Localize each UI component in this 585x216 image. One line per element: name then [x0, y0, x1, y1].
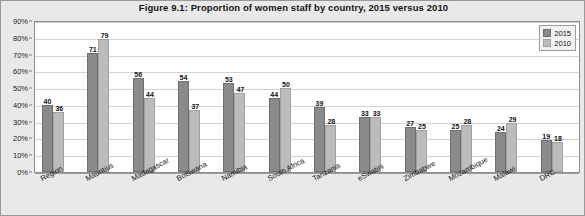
bar-2015[interactable]: 27 — [405, 127, 416, 172]
page-title: Figure 9.1: Proportion of women staff by… — [1, 2, 585, 13]
bar-group: 2429 — [488, 21, 533, 172]
bar-group: 7179 — [80, 21, 125, 172]
legend-label-2015: 2015 — [554, 29, 571, 38]
legend-swatch-2015-icon — [543, 29, 551, 37]
y-axis-tickmark — [29, 71, 32, 72]
bar-value-label: 28 — [327, 118, 335, 125]
bar-group: 2725 — [398, 21, 443, 172]
y-axis-tick-label: 40% — [13, 100, 28, 109]
bar-value-label: 54 — [180, 74, 188, 81]
bar-2015[interactable]: 24 — [495, 132, 506, 172]
bar-value-label: 19 — [542, 133, 550, 140]
bar-value-label: 36 — [55, 105, 63, 112]
y-axis-tick-label: 90% — [13, 17, 28, 26]
legend-item-2010[interactable]: 2010 — [543, 38, 571, 48]
bar-group: 2528 — [443, 21, 488, 172]
y-axis-tick-label: 20% — [13, 134, 28, 143]
bar-value-label: 33 — [373, 110, 381, 117]
bar-value-label: 50 — [282, 81, 290, 88]
y-axis-tickmark — [29, 121, 32, 122]
figure-9-1-chart: Figure 9.1: Proportion of women staff by… — [0, 0, 585, 216]
y-axis-tick-label: 10% — [13, 151, 28, 160]
bar-value-label: 56 — [134, 71, 142, 78]
bar-2010[interactable]: 50 — [280, 88, 291, 172]
y-axis-tick-label: 0% — [17, 168, 28, 177]
y-axis-tickmark — [29, 104, 32, 105]
bar-2010[interactable]: 36 — [53, 112, 64, 172]
bar-2015[interactable]: 54 — [178, 81, 189, 172]
bar-value-label: 40 — [44, 98, 52, 105]
bar-value-label: 33 — [361, 110, 369, 117]
bar-2015[interactable]: 44 — [269, 98, 280, 172]
bar-2015[interactable]: 56 — [133, 78, 144, 172]
bar-value-label: 29 — [509, 116, 517, 123]
bar-2010[interactable]: 18 — [552, 142, 563, 172]
bar-2015[interactable]: 53 — [223, 83, 234, 172]
y-axis-tickmark — [29, 37, 32, 38]
bar-value-label: 37 — [191, 103, 199, 110]
legend-label-2010: 2010 — [554, 39, 571, 48]
bar-group: 4450 — [262, 21, 307, 172]
bar-value-label: 79 — [101, 32, 109, 39]
y-axis-tick-label: 50% — [13, 84, 28, 93]
x-axis: RegionMauritiusMadagascarBotswanaNamibia… — [35, 175, 579, 216]
y-axis-tick-label: 60% — [13, 67, 28, 76]
bar-group: 4036 — [35, 21, 80, 172]
bar-2015[interactable]: 71 — [87, 53, 98, 172]
bar-value-label: 25 — [418, 123, 426, 130]
bar-group: 3333 — [352, 21, 397, 172]
y-axis-tickmark — [29, 155, 32, 156]
legend: 2015 2010 — [539, 25, 576, 51]
bar-value-label: 27 — [406, 120, 414, 127]
bar-value-label: 47 — [237, 86, 245, 93]
bar-value-label: 39 — [316, 100, 324, 107]
bar-value-label: 44 — [146, 91, 154, 98]
bar-value-label: 28 — [463, 118, 471, 125]
bar-value-label: 53 — [225, 76, 233, 83]
bars-layer: 4036717956445437534744503928333327252528… — [35, 21, 579, 172]
y-axis-tickmark — [29, 138, 32, 139]
bar-group: 5437 — [171, 21, 216, 172]
y-axis-tick-label: 30% — [13, 117, 28, 126]
bar-2015[interactable]: 39 — [314, 107, 325, 172]
bar-value-label: 24 — [497, 125, 505, 132]
bar-value-label: 25 — [452, 123, 460, 130]
bar-2010[interactable]: 47 — [234, 93, 245, 172]
y-axis-tickmark — [29, 172, 32, 173]
y-axis-tickmark — [29, 21, 32, 22]
bar-2010[interactable]: 44 — [144, 98, 155, 172]
y-axis-tick-label: 70% — [13, 50, 28, 59]
legend-item-2015[interactable]: 2015 — [543, 28, 571, 38]
legend-swatch-2010-icon — [543, 39, 551, 47]
y-axis-tickmark — [29, 88, 32, 89]
bar-value-label: 71 — [89, 46, 97, 53]
bar-group: 5347 — [216, 21, 261, 172]
bar-value-label: 18 — [554, 135, 562, 142]
bar-2010[interactable]: 79 — [98, 39, 109, 172]
bar-2015[interactable]: 25 — [450, 130, 461, 172]
y-axis-tick-label: 80% — [13, 33, 28, 42]
bar-group: 3928 — [307, 21, 352, 172]
bar-2015[interactable]: 33 — [359, 117, 370, 172]
y-axis: 90%80%70%60%50%40%30%20%10%0% — [1, 21, 32, 173]
bar-2015[interactable]: 40 — [42, 105, 53, 172]
bar-group: 5644 — [126, 21, 171, 172]
y-axis-tickmark — [29, 54, 32, 55]
bar-value-label: 44 — [270, 91, 278, 98]
